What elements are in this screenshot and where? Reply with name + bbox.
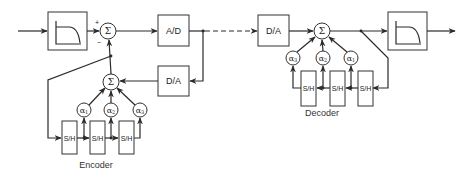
decoder-sample-hold-2: S/H bbox=[330, 71, 345, 106]
sigma-icon: Σ bbox=[105, 26, 111, 36]
da-label: D/A bbox=[266, 26, 281, 36]
input-filter-block bbox=[48, 12, 87, 50]
decoder-coefficient-alpha1: α1 bbox=[344, 51, 358, 65]
decoder-caption: Decoder bbox=[305, 108, 339, 118]
decoder-sample-hold-1: S/H bbox=[301, 71, 316, 106]
decoder-da-converter-block: D/A bbox=[258, 15, 289, 46]
sigma-icon: Σ bbox=[319, 26, 325, 36]
coefficient-alpha1: α1 bbox=[77, 103, 91, 117]
svg-text:S/H: S/H bbox=[121, 135, 133, 142]
predictor-summer: Σ bbox=[103, 74, 119, 90]
decoder-coefficient-alpha2: α2 bbox=[316, 51, 330, 65]
coefficient-alpha3: α3 bbox=[133, 103, 147, 117]
decoder-coefficient-alpha3: α3 bbox=[286, 51, 300, 65]
output-filter-block bbox=[388, 12, 427, 50]
svg-text:S/H: S/H bbox=[360, 85, 372, 92]
encoder: Σ + − A/D D/A Σ α1 bbox=[18, 12, 205, 170]
sigma-icon: Σ bbox=[108, 77, 114, 87]
plus-sign: + bbox=[95, 19, 99, 26]
encoder-sample-hold-1: S/H bbox=[62, 121, 77, 154]
decoder: D/A Σ α3 α2 α1 S/H bbox=[258, 12, 455, 118]
error-summer: Σ + − bbox=[95, 19, 116, 46]
da-label: D/A bbox=[166, 76, 181, 86]
minus-sign: − bbox=[97, 39, 101, 46]
encoder-sample-hold-2: S/H bbox=[90, 121, 105, 154]
encoder-caption: Encoder bbox=[79, 160, 113, 170]
svg-text:S/H: S/H bbox=[303, 85, 315, 92]
coefficient-alpha2: α2 bbox=[104, 103, 118, 117]
encoder-da-converter-block: D/A bbox=[158, 66, 189, 96]
encoder-sample-hold-3: S/H bbox=[119, 121, 134, 154]
svg-text:S/H: S/H bbox=[332, 85, 344, 92]
svg-text:S/H: S/H bbox=[64, 135, 76, 142]
dpcm-block-diagram: Σ + − A/D D/A Σ α1 bbox=[0, 0, 475, 173]
ad-converter-block: A/D bbox=[158, 15, 189, 46]
decoder-sample-hold-3: S/H bbox=[358, 71, 373, 106]
svg-text:S/H: S/H bbox=[92, 135, 104, 142]
decoder-summer: Σ bbox=[314, 23, 330, 39]
ad-label: A/D bbox=[166, 26, 182, 36]
